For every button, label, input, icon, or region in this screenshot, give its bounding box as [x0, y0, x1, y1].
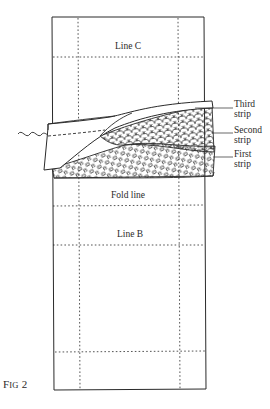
foundation-paper-outline — [52, 17, 206, 390]
line-b-label: Line B — [117, 229, 143, 239]
fold-line-label: Fold line — [111, 190, 145, 200]
thread-tail-icon — [18, 132, 48, 135]
strip-piecing-diagram — [0, 0, 270, 409]
line-c-label: Line C — [115, 41, 141, 51]
figure-caption: Fig 2 — [3, 378, 27, 390]
